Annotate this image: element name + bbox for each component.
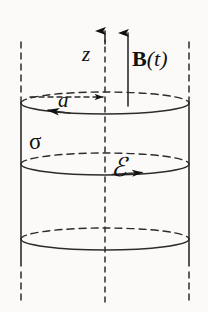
z-axis-label: z bbox=[82, 44, 90, 65]
conductivity-label: σ bbox=[29, 130, 41, 153]
figure-canvas bbox=[0, 0, 208, 312]
magnetic-field-argument: (t) bbox=[147, 46, 168, 71]
magnetic-field-symbol: B bbox=[132, 46, 147, 71]
radius-label: a bbox=[58, 90, 69, 111]
magnetic-field-label: B(t) bbox=[132, 48, 167, 70]
physics-figure: z B(t) a σ ℰ bbox=[0, 0, 208, 312]
emf-label: ℰ bbox=[111, 155, 127, 181]
